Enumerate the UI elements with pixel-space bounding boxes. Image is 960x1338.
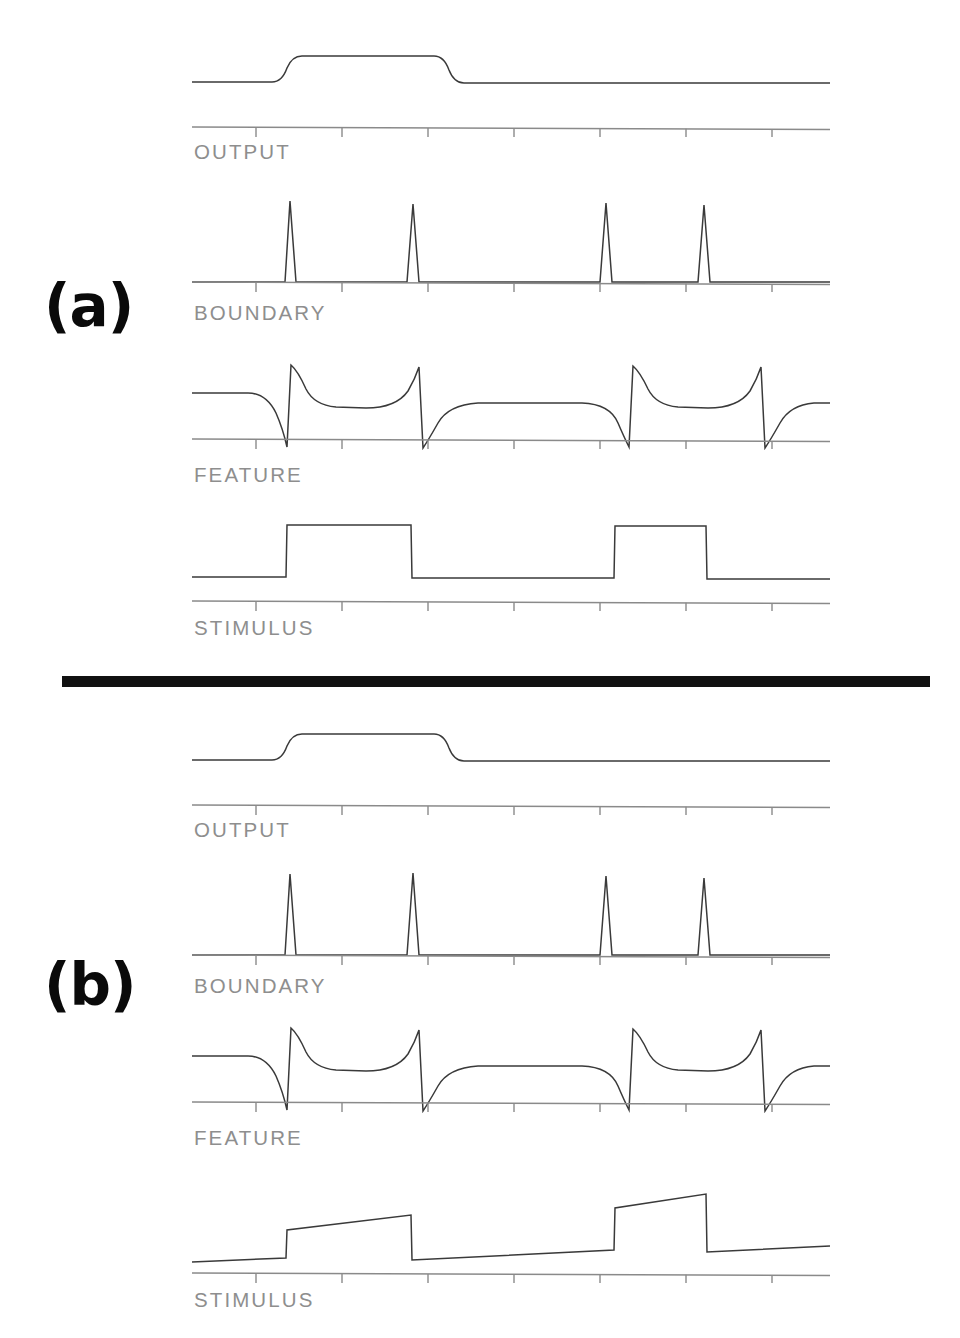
trace-b-feature-label: FEATURE bbox=[194, 1128, 303, 1149]
trace-b-stimulus: STIMULUS bbox=[186, 1170, 836, 1290]
trace-b-output-label: OUTPUT bbox=[194, 820, 291, 841]
trace-a-stimulus-svg bbox=[186, 505, 836, 617]
axis-a-boundary bbox=[192, 282, 830, 292]
trace-a-feature: FEATURE bbox=[186, 355, 836, 467]
boundary-spikes bbox=[192, 201, 830, 282]
trace-b-stimulus-svg bbox=[186, 1170, 836, 1290]
trace-a-output-svg bbox=[186, 30, 836, 138]
output-curve bbox=[192, 734, 830, 761]
trace-b-stimulus-label: STIMULUS bbox=[194, 1290, 314, 1311]
panel-b-label: (b) bbox=[44, 956, 136, 1014]
trace-a-feature-svg bbox=[186, 355, 836, 467]
panel-a-label: (a) bbox=[44, 277, 133, 335]
trace-a-boundary: BOUNDARY bbox=[186, 190, 836, 300]
trace-b-feature-svg bbox=[186, 1018, 836, 1130]
trace-a-feature-label: FEATURE bbox=[194, 465, 303, 486]
feature-curve bbox=[192, 365, 830, 448]
boundary-spikes bbox=[192, 873, 830, 955]
trace-a-output-label: OUTPUT bbox=[194, 142, 291, 163]
trace-b-boundary-svg bbox=[186, 863, 836, 973]
trace-b-output: OUTPUT bbox=[186, 708, 836, 816]
trace-b-feature: FEATURE bbox=[186, 1018, 836, 1130]
trace-b-output-svg bbox=[186, 708, 836, 816]
figure-root: (a) OUTPUT bbox=[0, 0, 960, 1338]
output-curve bbox=[192, 56, 830, 83]
axis-a-stimulus bbox=[192, 601, 830, 611]
trace-a-stimulus: STIMULUS bbox=[186, 505, 836, 617]
trace-a-output: OUTPUT bbox=[186, 30, 836, 138]
panel-b: (b) OUTPUT bbox=[0, 700, 960, 1338]
stimulus-ramp-curve bbox=[192, 1194, 830, 1262]
trace-a-boundary-svg bbox=[186, 190, 836, 300]
feature-curve bbox=[192, 1028, 830, 1111]
trace-a-stimulus-label: STIMULUS bbox=[194, 618, 314, 639]
panel-a: (a) OUTPUT bbox=[0, 0, 960, 660]
trace-b-boundary-label: BOUNDARY bbox=[194, 976, 327, 997]
axis-b-stimulus bbox=[192, 1273, 830, 1283]
axis-b-output bbox=[192, 805, 830, 815]
panel-divider bbox=[62, 676, 930, 687]
trace-b-boundary: BOUNDARY bbox=[186, 863, 836, 973]
stimulus-curve bbox=[192, 525, 830, 579]
trace-a-boundary-label: BOUNDARY bbox=[194, 303, 327, 324]
axis-b-boundary bbox=[192, 955, 830, 965]
axis-a-output bbox=[192, 127, 830, 137]
